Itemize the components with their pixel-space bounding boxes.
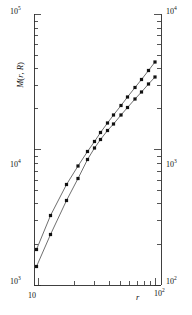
y-right-tick-mid: 103	[166, 161, 177, 169]
series-lower-shallow-branch	[35, 75, 157, 268]
y-axis-title: M(r, R)	[15, 45, 25, 105]
series-lower-line	[37, 77, 156, 267]
series-upper-steep-branch	[35, 60, 157, 251]
x-tick-left: 10	[28, 292, 36, 300]
series-upper-line	[37, 62, 156, 250]
y-right-tick-top: 104	[166, 8, 177, 16]
axis-frame	[34, 14, 161, 285]
series-upper-markers	[35, 60, 157, 251]
series-lower-markers	[35, 75, 157, 268]
figure-container: M(r, R) r 105 104 103 104 103 102 10 102	[0, 0, 192, 315]
right-axis-ticks	[154, 14, 161, 285]
bottom-axis-ticks	[39, 278, 156, 285]
x-axis-title: r	[136, 292, 139, 302]
x-tick-right: 102	[154, 290, 165, 298]
y-right-tick-bottom: 102	[166, 278, 177, 286]
y-left-tick-top: 105	[10, 8, 21, 16]
left-axis-ticks	[34, 14, 41, 285]
y-left-tick-bottom: 103	[10, 278, 21, 286]
y-left-tick-mid: 104	[10, 161, 21, 169]
log-log-plot	[0, 0, 192, 315]
